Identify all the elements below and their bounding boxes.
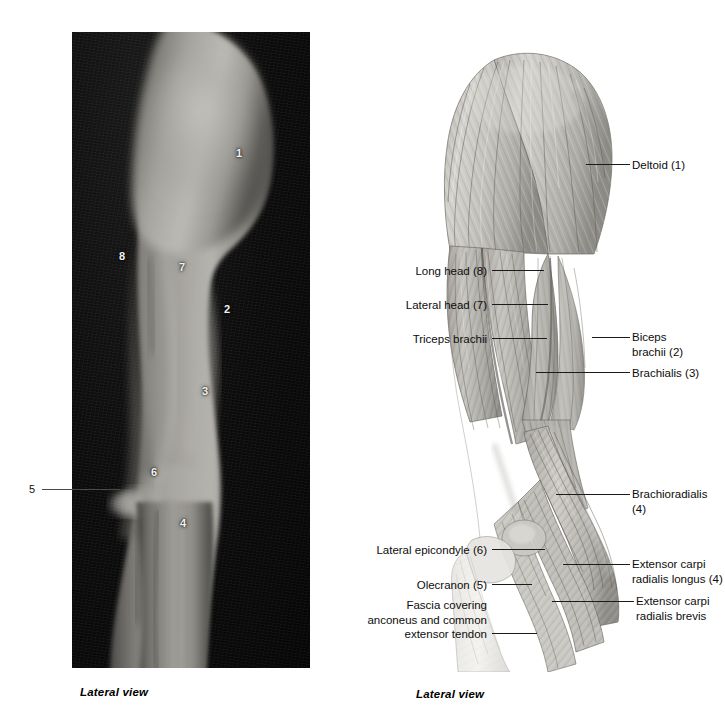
photo-callout-7: 7 [179, 262, 185, 273]
leader-long-head [492, 270, 544, 271]
photo-callout-5-leader [42, 489, 120, 490]
leader-biceps-brachii [592, 337, 630, 338]
label-extensor-carpi-radialis-longus: Extensor carpi radialis longus (4) [632, 557, 723, 586]
leader-lateral-head [492, 304, 548, 305]
photo-callout-1: 1 [236, 148, 242, 159]
photo-callout-8: 8 [119, 251, 125, 262]
label-lateral-head: Lateral head (7) [380, 298, 487, 313]
figure-canvas: 1 8 7 2 3 6 4 5 Lateral view [0, 0, 725, 716]
label-brachialis: Brachialis (3) [632, 366, 699, 381]
label-triceps-brachii: Triceps brachii [388, 332, 487, 347]
label-brachioradialis: Brachioradialis (4) [632, 487, 707, 516]
right-panel-caption: Lateral view [416, 688, 484, 700]
label-fascia-anconeus-extensor-tendon: Fascia covering anconeus and common exte… [330, 598, 487, 642]
leader-triceps-brachii [492, 338, 547, 339]
leader-extensor-carpi-radialis-brevis [552, 601, 634, 602]
leader-lateral-epicondyle [492, 549, 545, 550]
photo-callout-3: 3 [202, 386, 208, 397]
left-panel-caption: Lateral view [80, 686, 148, 698]
label-biceps-brachii: Biceps brachii (2) [632, 330, 683, 359]
label-olecranon: Olecranon (5) [396, 578, 487, 593]
leader-olecranon [492, 584, 532, 585]
label-long-head: Long head (8) [389, 264, 487, 279]
label-deltoid: Deltoid (1) [632, 158, 685, 173]
label-extensor-carpi-radialis-brevis: Extensor carpi radialis brevis [636, 594, 710, 623]
leader-brachioradialis [556, 494, 630, 495]
leader-brachialis [536, 372, 630, 373]
photo-callout-2: 2 [224, 304, 230, 315]
photographed-arm [80, 32, 280, 668]
photo-callout-5-label: 5 [29, 484, 35, 495]
leader-deltoid [586, 164, 630, 165]
surface-anatomy-photograph: 1 8 7 2 3 6 4 [72, 32, 310, 668]
photo-callout-6: 6 [151, 467, 157, 478]
leader-extensor-carpi-radialis-longus [563, 564, 630, 565]
photo-callout-4: 4 [180, 518, 186, 529]
label-lateral-epicondyle: Lateral epicondyle (6) [364, 543, 487, 558]
leader-fascia-anconeus-extensor-tendon [492, 633, 537, 634]
